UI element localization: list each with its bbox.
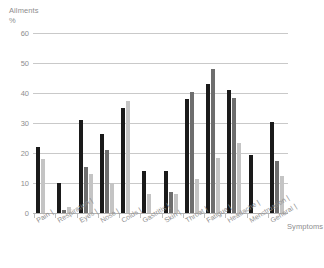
bar: [36, 147, 40, 213]
bar: [280, 176, 284, 214]
bar: [190, 92, 194, 214]
plot-area: [33, 33, 288, 213]
y-axis-tick-label: 0: [0, 209, 29, 218]
gridline: [33, 93, 288, 94]
bar: [169, 192, 173, 213]
bar: [79, 120, 83, 213]
bar: [41, 159, 45, 213]
bar: [105, 150, 109, 213]
y-axis-tick-label: 20: [0, 149, 29, 158]
bar: [206, 84, 210, 213]
bar: [142, 171, 146, 213]
gridline: [33, 123, 288, 124]
bar: [121, 108, 125, 213]
bar: [147, 194, 151, 214]
bar: [185, 99, 189, 213]
bar: [216, 158, 220, 214]
bar: [126, 101, 130, 214]
bar: [237, 143, 241, 214]
bar: [232, 98, 236, 214]
bar-chart: Ailments % Symptoms 0102030405060 Pain |…: [0, 0, 324, 268]
y-axis-tick-label: 30: [0, 119, 29, 128]
bar: [57, 183, 61, 213]
bar: [227, 90, 231, 213]
y-axis-tick-label: 40: [0, 89, 29, 98]
y-axis-tick-label: 10: [0, 179, 29, 188]
bar: [270, 122, 274, 214]
x-axis-title: Symptoms: [287, 222, 323, 231]
gridline: [33, 63, 288, 64]
y-axis-tick-label: 60: [0, 29, 29, 38]
bar: [100, 134, 104, 214]
bar: [211, 69, 215, 213]
bar: [89, 174, 93, 213]
gridline: [33, 33, 288, 34]
y-axis-tick-label: 50: [0, 59, 29, 68]
y-axis-title: Ailments %: [9, 6, 39, 25]
